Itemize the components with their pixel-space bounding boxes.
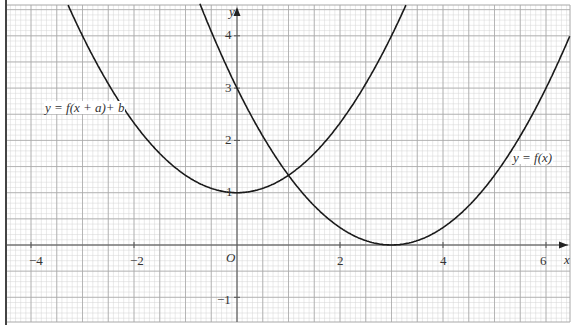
x-tick-label: 4 [439,254,448,267]
y-tick-label: 1 [225,185,234,198]
y-tick-label: −1 [216,293,232,306]
x-tick-label: 6 [539,254,548,267]
y-tick-label: 2 [224,133,233,146]
y-tick-label: 4 [224,28,233,41]
origin-label: O [225,251,236,264]
x-tick-label: 2 [336,254,345,267]
graph-figure: −4 −2 2 4 6 4 3 2 1 −1 O x y y = f(x + a… [0,0,576,325]
curve-f-label: y = f(x) [512,151,553,164]
x-axis-label: x [563,253,571,266]
x-tick-label: −4 [28,254,44,267]
curve-g-label: y = f(x + a)+ b [44,101,125,114]
plot-area [0,0,576,325]
y-tick-label: 3 [224,81,233,94]
x-tick-label: −2 [129,254,145,267]
y-axis-label: y [228,5,236,18]
